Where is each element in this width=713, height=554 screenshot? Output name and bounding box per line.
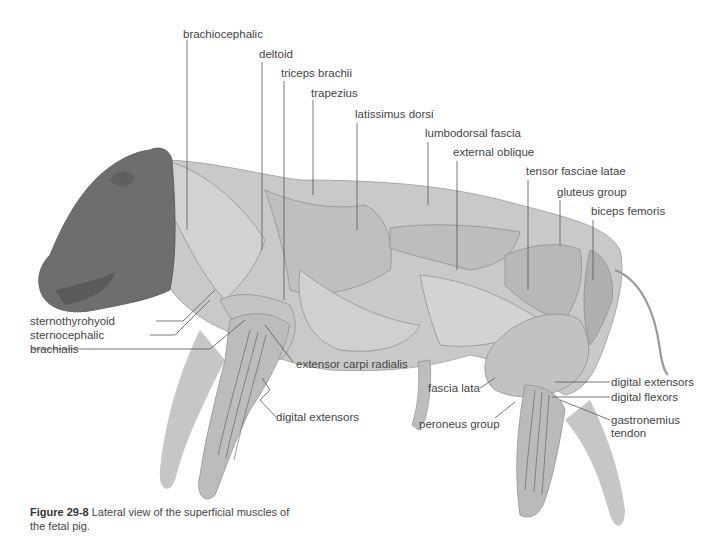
label-tensor-fasciae-latae: tensor fasciae latae <box>526 165 626 178</box>
figure-number: Figure 29-8 <box>30 506 89 518</box>
tail <box>615 270 668 375</box>
label-extensor-carpi-radialis: extensor carpi radialis <box>296 358 408 371</box>
label-fascia-lata: fascia lata <box>428 382 480 395</box>
label-brachialis: brachialis <box>30 343 79 356</box>
label-brachiocephalic: brachiocephalic <box>183 28 263 41</box>
label-lumbodorsal-fascia: lumbodorsal fascia <box>425 127 521 140</box>
label-gastronemius: gastronemius <box>611 414 680 427</box>
forelimb <box>199 314 290 499</box>
label-triceps-brachii: triceps brachii <box>281 67 352 80</box>
label-external-oblique: external oblique <box>453 146 534 159</box>
label-gluteus-group: gluteus group <box>557 186 627 199</box>
label-deltoid: deltoid <box>259 48 293 61</box>
head <box>39 148 175 312</box>
label-biceps-femoris: biceps femoris <box>591 205 665 218</box>
label-digital-extensors-hind: digital extensors <box>611 376 694 389</box>
label-latissimus-dorsi: latissimus dorsi <box>355 108 434 121</box>
label-trapezius: trapezius <box>311 87 358 100</box>
label-gastronemius-tendon: tendon <box>611 427 646 440</box>
figure-caption: Figure 29-8 Lateral view of the superfic… <box>30 505 300 533</box>
label-sternothyrohyoid: sternothyrohyoid <box>30 315 115 328</box>
label-peroneus-group: peroneus group <box>419 418 500 431</box>
label-digital-extensors-fore: digital extensors <box>276 411 359 424</box>
fetal-pig-muscle-diagram <box>0 0 713 554</box>
label-digital-flexors: digital flexors <box>611 391 678 404</box>
label-sternocephalic: sternocephalic <box>30 329 104 342</box>
